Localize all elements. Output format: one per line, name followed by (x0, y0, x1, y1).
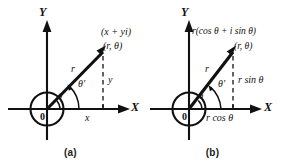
diagram-panel-b: Y X 0 r θ θ′ r(cos θ + i sin θ) (r, θ) r… (142, 0, 283, 166)
y-axis-arrowhead (43, 20, 52, 32)
origin-label: 0 (182, 112, 187, 122)
angle-theta-arc (57, 101, 60, 109)
angle-theta-prime-arc (70, 86, 80, 109)
horizontal-leg-label: r cos θ (206, 113, 233, 123)
radius-label: r (71, 64, 75, 74)
angle-theta-prime-label: θ′ (218, 79, 225, 89)
x-axis-label: X (264, 101, 272, 113)
panel-b-caption: (b) (142, 147, 283, 158)
angle-theta-label: θ (58, 92, 62, 101)
horizontal-leg-label: x (85, 113, 89, 123)
radius-vector (189, 52, 233, 109)
angle-theta-prime-arc (210, 87, 221, 109)
vertical-leg-label: r sin θ (238, 75, 263, 85)
origin-label: 0 (40, 112, 45, 122)
figure-container: Y X 0 r θ θ′ (x + yi) (r, θ) x y (a) (0, 0, 283, 166)
radius-label: r (205, 64, 209, 74)
angle-theta-label: θ (199, 92, 203, 101)
x-axis-arrowhead (250, 105, 262, 114)
radius-vector (47, 52, 103, 109)
point-trigonometric-label: r(cos θ + i sin θ) (192, 27, 256, 37)
point-rectangular-label: (x + yi) (101, 27, 131, 37)
vertical-leg-label: y (108, 75, 112, 85)
angle-theta-arc (198, 101, 202, 110)
x-axis-arrowhead (118, 105, 130, 114)
y-axis-label: Y (39, 6, 46, 18)
angle-theta-prime-label: θ′ (78, 79, 85, 89)
panel-a-vector-graphic (0, 0, 141, 166)
diagram-panel-a: Y X 0 r θ θ′ (x + yi) (r, θ) x y (a) (0, 0, 141, 166)
y-axis-label: Y (181, 6, 188, 18)
x-axis-label: X (131, 101, 139, 113)
point-polar-label: (r, θ) (103, 41, 122, 51)
point-polar-label: (r, θ) (234, 42, 252, 52)
panel-a-caption: (a) (0, 147, 141, 158)
